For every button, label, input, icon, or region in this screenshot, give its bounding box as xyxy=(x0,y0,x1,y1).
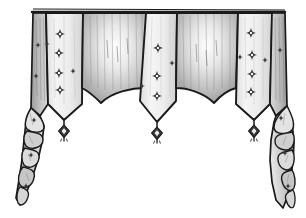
center-pointed-jabot-panel xyxy=(139,13,177,122)
right-swag-section xyxy=(176,13,238,103)
left-pointed-jabot-panel xyxy=(44,13,83,120)
right-pointed-jabot-panel xyxy=(236,13,272,120)
right-outer-wing xyxy=(270,13,287,116)
illustration-canvas: Scalloped Window Valance with Pointed Ja… xyxy=(0,0,306,218)
valance-drawing xyxy=(0,0,306,218)
right-cascade-tail xyxy=(270,106,295,208)
